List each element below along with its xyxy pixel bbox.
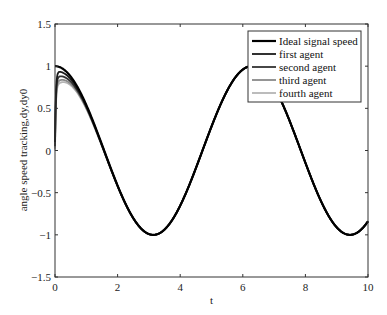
legend-label: fourth agent [279, 87, 332, 99]
legend-label: third agent [279, 74, 326, 86]
x-tick-label: 2 [115, 281, 121, 293]
legend-label: second agent [279, 61, 336, 73]
y-tick-label: 1 [46, 60, 52, 72]
y-tick-label: 0.5 [37, 102, 51, 114]
x-tick-label: 0 [52, 281, 58, 293]
y-tick-label: −1 [39, 229, 51, 241]
y-tick-label: −1.5 [31, 271, 51, 283]
x-tick-label: 4 [177, 281, 183, 293]
x-tick-label: 10 [363, 281, 375, 293]
x-tick-label: 8 [303, 281, 309, 293]
legend-label: first agent [279, 48, 323, 60]
y-tick-label: 1.5 [37, 18, 51, 30]
y-tick-label: −0.5 [31, 187, 51, 199]
legend-label: Ideal signal speed [279, 35, 358, 47]
legend: Ideal signal speedfirst agentsecond agen… [248, 31, 361, 102]
x-axis-label: t [210, 294, 213, 306]
y-axis-label: angle speed tracking,dy,dy0 [17, 88, 29, 211]
line-chart: 0246810 −1.5−1−0.500.511.5 t angle speed… [0, 0, 387, 315]
x-tick-label: 6 [240, 281, 246, 293]
y-tick-label: 0 [46, 145, 52, 157]
